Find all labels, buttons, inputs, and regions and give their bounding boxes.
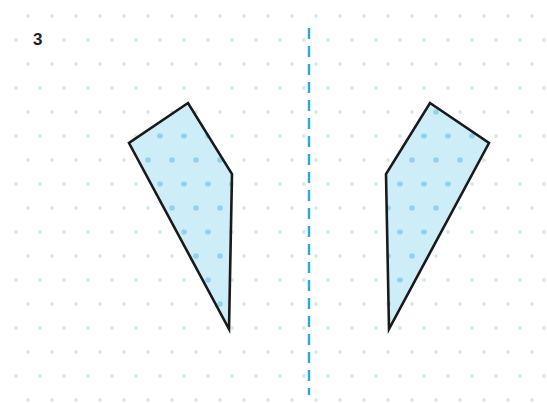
symmetry-figure (0, 0, 547, 403)
left-quadrilateral-fill (129, 103, 232, 329)
grid-dots-inside-left-shape (13, 13, 547, 403)
worksheet-canvas: 3 (0, 0, 547, 403)
grid-dots-inside-right-shape (13, 13, 547, 403)
